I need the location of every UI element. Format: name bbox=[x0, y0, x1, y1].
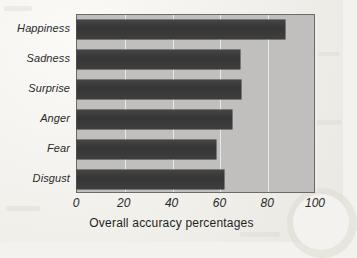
y-axis-label: Surprise bbox=[0, 82, 70, 94]
x-axis-tick-label: 20 bbox=[117, 196, 130, 210]
gridline bbox=[173, 15, 174, 192]
bar bbox=[77, 170, 224, 189]
y-axis-label: Sadness bbox=[0, 52, 70, 64]
gridline bbox=[268, 15, 269, 192]
gridline bbox=[316, 15, 317, 192]
x-axis-tick-label: 100 bbox=[305, 196, 325, 210]
bar bbox=[77, 110, 232, 129]
x-axis-title: Overall accuracy percentages bbox=[0, 216, 343, 230]
x-axis-tick-label: 0 bbox=[73, 196, 80, 210]
x-axis-tick-label: 60 bbox=[213, 196, 226, 210]
y-axis-label: Disgust bbox=[0, 172, 70, 184]
bar bbox=[77, 50, 240, 69]
x-axis-tick-label: 80 bbox=[261, 196, 274, 210]
bar bbox=[77, 20, 285, 39]
gridline bbox=[125, 15, 126, 192]
y-axis-label: Happiness bbox=[0, 22, 70, 34]
x-axis-tick-label: 40 bbox=[165, 196, 178, 210]
y-axis-label: Fear bbox=[0, 142, 70, 154]
bar bbox=[77, 140, 216, 159]
bar bbox=[77, 80, 241, 99]
gridline bbox=[220, 15, 221, 192]
y-axis-label: Anger bbox=[0, 112, 70, 124]
plot-area bbox=[76, 14, 315, 193]
